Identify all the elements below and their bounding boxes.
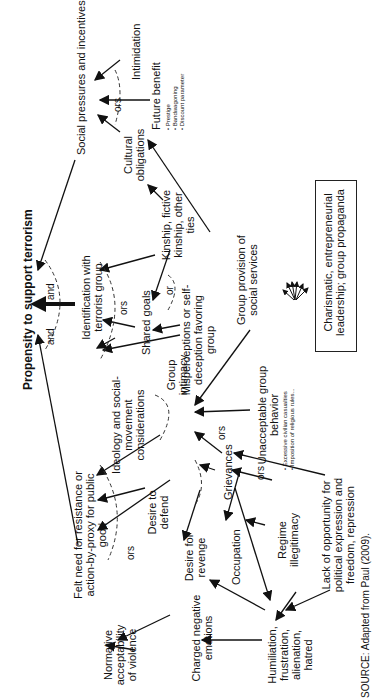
unacceptable-bullet-1: • Excessive civilian casualties [282,391,289,470]
node-humiliation: Humiliation, frustration, alienation, ha… [266,615,314,695]
node-grievances: Grievances [222,444,234,500]
future-benefit-bullet-1: • Prestige [165,104,172,130]
and-connector-2: and [45,328,57,345]
node-desire-defend: Desire to defend [146,485,170,540]
ors-connector-grievances: ors [255,466,267,480]
node-felt-need: Felt need for resistance or action-by-pr… [72,460,108,610]
node-charged: Charged negative emotions [190,578,214,698]
or-connector: or [164,286,176,295]
node-kinship: Kinship, fictive kinship, other ties [160,185,196,265]
node-group-social-services: Group provision of social services [235,230,259,330]
future-benefit-bullet-2: • Bandwagoning [172,87,179,130]
node-lack-opportunity: Lack of opportunity for political expres… [320,470,356,600]
node-future-benefit: Future benefit [150,62,162,130]
node-intimidation: Intimidation [130,24,142,80]
title-propensity: Propensity to support terrorism [22,209,34,390]
source-note: SOURCE: Adapted from Paul (2009). [360,533,372,698]
ors-connector-intimacy: ors [216,426,228,440]
and-connector-1: and [45,283,57,300]
node-leadership: Charismatic, entrepreneurial leadership;… [322,180,346,345]
node-ideology: Ideology and social-movement considerati… [110,370,146,480]
node-regime: Regime illegitimacy [276,510,300,570]
node-occupation: Occupation [230,529,242,585]
ors-connector-identification: ors [118,301,130,315]
future-benefit-bullet-3: • Discount parameter [179,74,186,130]
ors-connector-felt-need: ors [125,546,137,560]
node-unacceptable: Unacceptable group behavior [256,360,280,470]
node-normative: Normative acceptability of violence [102,620,138,690]
node-identification: Identification with terrorist group [80,250,104,345]
node-group-intimacy: Group intimacy [165,350,189,400]
node-social-pressures: Social pressures and incentives [75,25,87,155]
unacceptable-bullet-2: • Imposition of religious rules... [289,389,296,470]
node-shared-goals: Shared goals [140,290,152,355]
ors-connector-social: ors [112,98,124,112]
node-cultural-obligations: Cultural obligations [122,125,146,185]
